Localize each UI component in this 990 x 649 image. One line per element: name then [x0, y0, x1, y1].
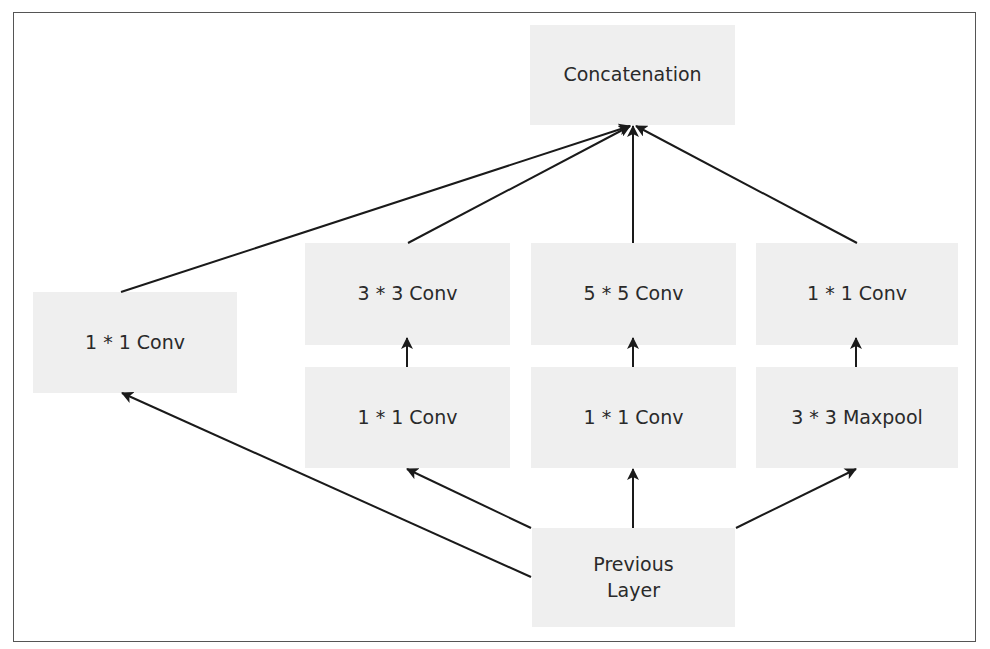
5x5-reduce-1x1-conv-node: 1 * 1 Conv: [531, 367, 736, 468]
3x3-conv-label: 3 * 3 Conv: [358, 281, 458, 307]
previous-layer-label-line1: Previous: [593, 552, 673, 578]
left-1x1-conv-node: 1 * 1 Conv: [33, 292, 237, 393]
3x3-maxpool-node: 3 * 3 Maxpool: [756, 367, 958, 468]
left-1x1-conv-label: 1 * 1 Conv: [85, 330, 185, 356]
pool-proj-1x1-conv-label: 1 * 1 Conv: [807, 281, 907, 307]
previous-layer-label-line2: Layer: [607, 578, 660, 604]
concatenation-label: Concatenation: [563, 62, 701, 88]
concatenation-node: Concatenation: [530, 25, 735, 125]
5x5-conv-label: 5 * 5 Conv: [584, 281, 684, 307]
3x3-reduce-1x1-conv-label: 1 * 1 Conv: [358, 405, 458, 431]
3x3-maxpool-label: 3 * 3 Maxpool: [791, 405, 923, 431]
5x5-reduce-1x1-conv-label: 1 * 1 Conv: [584, 405, 684, 431]
3x3-conv-node: 3 * 3 Conv: [305, 243, 510, 345]
previous-layer-node: Previous Layer: [532, 528, 735, 627]
pool-proj-1x1-conv-node: 1 * 1 Conv: [756, 243, 958, 345]
5x5-conv-node: 5 * 5 Conv: [531, 243, 736, 345]
3x3-reduce-1x1-conv-node: 1 * 1 Conv: [305, 367, 510, 468]
